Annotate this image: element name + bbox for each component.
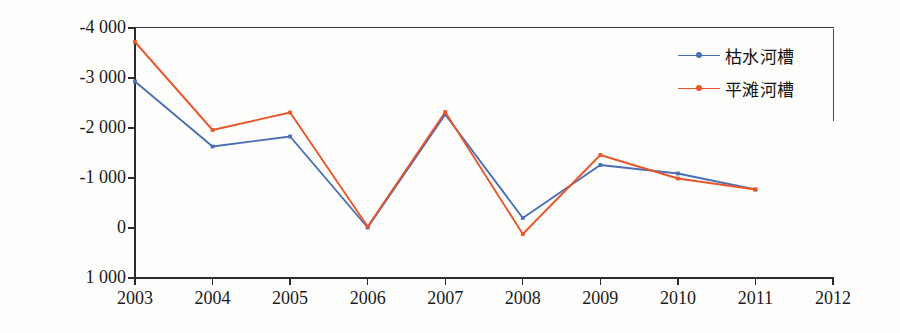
y-tick-mark bbox=[128, 127, 135, 128]
legend-label: 枯水河槽 bbox=[725, 43, 794, 68]
x-tick-mark bbox=[832, 278, 833, 285]
series-marker bbox=[676, 177, 680, 181]
x-axis-line bbox=[134, 277, 834, 279]
legend-item-2[interactable]: 平滩河槽 bbox=[678, 72, 833, 105]
legend-marker-icon bbox=[696, 52, 702, 58]
x-tick-mark bbox=[600, 278, 601, 285]
x-tick-label: 2012 bbox=[793, 288, 873, 309]
x-tick-label: 2005 bbox=[250, 288, 330, 309]
legend-item-1[interactable]: 枯水河槽 bbox=[678, 39, 833, 72]
series-marker bbox=[598, 153, 602, 157]
x-tick-label: 2009 bbox=[560, 288, 640, 309]
x-tick-label: 2004 bbox=[173, 288, 253, 309]
y-tick-label: -2 000 bbox=[40, 117, 126, 138]
x-tick-mark bbox=[212, 278, 213, 285]
y-tick-label: -4 000 bbox=[40, 17, 126, 38]
series-marker bbox=[211, 128, 215, 132]
y-tick-label: -3 000 bbox=[40, 67, 126, 88]
x-tick-mark bbox=[134, 278, 135, 285]
y-tick-mark bbox=[128, 177, 135, 178]
series-marker bbox=[598, 163, 602, 167]
x-tick-label: 2008 bbox=[483, 288, 563, 309]
x-tick-mark bbox=[367, 278, 368, 285]
x-tick-mark bbox=[445, 278, 446, 285]
series-marker bbox=[443, 110, 447, 114]
series-marker bbox=[676, 172, 680, 176]
legend-line-icon bbox=[678, 82, 720, 96]
y-tick-mark bbox=[128, 227, 135, 228]
y-axis-line bbox=[134, 27, 136, 279]
series-marker bbox=[521, 232, 525, 236]
series-marker bbox=[521, 216, 525, 220]
series-marker bbox=[211, 145, 215, 149]
y-tick-label: 1 000 bbox=[40, 267, 126, 288]
x-tick-mark bbox=[755, 278, 756, 285]
y-tick-label: 0 bbox=[40, 217, 126, 238]
x-tick-label: 2007 bbox=[405, 288, 485, 309]
series-marker bbox=[366, 226, 370, 230]
x-tick-label: 2003 bbox=[95, 288, 175, 309]
x-tick-mark bbox=[677, 278, 678, 285]
x-tick-label: 2011 bbox=[715, 288, 795, 309]
y-tick-mark bbox=[128, 77, 135, 78]
series-marker bbox=[366, 225, 370, 229]
y-tick-mark bbox=[128, 27, 135, 28]
chart-legend: 枯水河槽平滩河槽 bbox=[660, 29, 834, 121]
series-marker bbox=[443, 113, 447, 117]
legend-line-icon bbox=[678, 49, 720, 63]
x-tick-mark bbox=[289, 278, 290, 285]
x-tick-label: 2006 bbox=[328, 288, 408, 309]
series-marker bbox=[288, 111, 292, 115]
series-marker bbox=[288, 135, 292, 139]
x-tick-mark bbox=[522, 278, 523, 285]
chart-figure: 冲淤量(万 m3) -4 000-3 000-2 000-1 00001 000… bbox=[0, 0, 900, 333]
y-tick-label: -1 000 bbox=[40, 167, 126, 188]
x-tick-label: 2010 bbox=[638, 288, 718, 309]
legend-label: 平滩河槽 bbox=[725, 76, 794, 101]
series-marker bbox=[754, 188, 758, 192]
series-marker bbox=[754, 188, 758, 192]
legend-marker-icon bbox=[696, 85, 702, 91]
